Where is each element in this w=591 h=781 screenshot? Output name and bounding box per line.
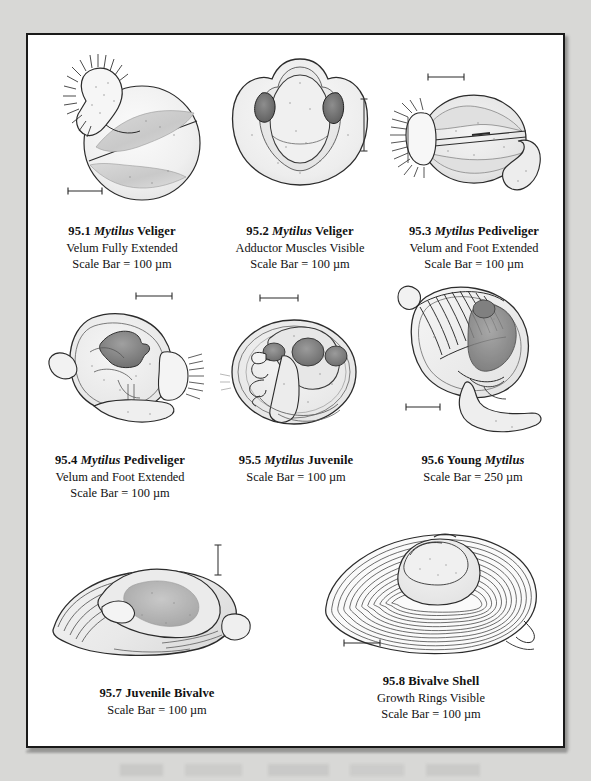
caption-scale: Scale Bar = 100 µm (208, 469, 384, 486)
figure-95-4: 95.4 Mytilus Pediveliger Velum and Foot … (32, 280, 208, 502)
caption-subtitle: Growth Rings Visible (300, 690, 562, 707)
caption-95-4: 95.4 Mytilus Pediveliger Velum and Foot … (32, 452, 208, 502)
young-mytilus-gills-foot-illustration (384, 267, 562, 450)
caption-title: 95.2 Mytilus Veliger (212, 223, 388, 240)
caption-title: 95.7 Juvenile Bivalve (42, 685, 272, 702)
caption-subtitle: Adductor Muscles Visible (212, 240, 388, 257)
caption-95-5: 95.5 Mytilus Juvenile Scale Bar = 100 µm (208, 452, 384, 485)
scale-bar (406, 404, 440, 411)
mytilus-pediveliger-lateral-illustration (32, 280, 208, 450)
mytilus-juvenile-illustration (208, 280, 384, 450)
bivalve-shell-growth-rings-illustration (300, 503, 562, 671)
caption-title: 95.6 Young Mytilus (384, 452, 562, 469)
mytilus-veliger-adductor-muscles-illustration (212, 43, 388, 221)
caption-title: 95.3 Mytilus Pediveliger (386, 223, 562, 240)
caption-95-2: 95.2 Mytilus Veliger Adductor Muscles Vi… (212, 223, 388, 273)
figure-95-5: 95.5 Mytilus Juvenile Scale Bar = 100 µm (208, 280, 384, 485)
mytilus-pediveliger-velum-foot-illustration (386, 43, 562, 221)
figure-95-3: 95.3 Mytilus Pediveliger Velum and Foot … (386, 43, 562, 273)
caption-title: 95.1 Mytilus Veliger (34, 223, 210, 240)
caption-scale: Scale Bar = 100 µm (32, 485, 208, 502)
caption-95-7: 95.7 Juvenile Bivalve Scale Bar = 100 µm (42, 685, 272, 718)
figure-95-6: 95.6 Young Mytilus Scale Bar = 250 µm (384, 267, 562, 485)
juvenile-bivalve-shell-illustration (42, 523, 272, 683)
figure-plate: 95.1 Mytilus Veliger Velum Fully Extende… (26, 33, 565, 748)
figure-95-2: 95.2 Mytilus Veliger Adductor Muscles Vi… (212, 43, 388, 273)
caption-scale: Scale Bar = 100 µm (34, 256, 210, 273)
caption-subtitle: Velum and Foot Extended (386, 240, 562, 257)
scale-bar (68, 188, 102, 195)
caption-title: 95.8 Bivalve Shell (300, 673, 562, 690)
figure-95-1: 95.1 Mytilus Veliger Velum Fully Extende… (34, 43, 210, 273)
page-footer-ghost-text (120, 764, 480, 776)
caption-95-8: 95.8 Bivalve Shell Growth Rings Visible … (300, 673, 562, 723)
caption-title: 95.5 Mytilus Juvenile (208, 452, 384, 469)
caption-95-1: 95.1 Mytilus Veliger Velum Fully Extende… (34, 223, 210, 273)
figure-95-8: 95.8 Bivalve Shell Growth Rings Visible … (300, 503, 562, 723)
scale-bar (215, 545, 222, 575)
caption-95-6: 95.6 Young Mytilus Scale Bar = 250 µm (384, 452, 562, 485)
scale-bar (428, 74, 464, 81)
caption-scale: Scale Bar = 100 µm (42, 702, 272, 719)
caption-scale: Scale Bar = 100 µm (212, 256, 388, 273)
mytilus-veliger-velum-extended-illustration (34, 43, 210, 221)
figure-95-7: 95.7 Juvenile Bivalve Scale Bar = 100 µm (42, 523, 272, 718)
caption-title: 95.4 Mytilus Pediveliger (32, 452, 208, 469)
scale-bar (136, 293, 172, 300)
plate-shadow-edge (26, 750, 567, 753)
scale-bar (260, 295, 298, 302)
caption-95-3: 95.3 Mytilus Pediveliger Velum and Foot … (386, 223, 562, 273)
caption-scale: Scale Bar = 250 µm (384, 469, 562, 486)
caption-subtitle: Velum and Foot Extended (32, 469, 208, 486)
caption-scale: Scale Bar = 100 µm (300, 706, 562, 723)
caption-subtitle: Velum Fully Extended (34, 240, 210, 257)
